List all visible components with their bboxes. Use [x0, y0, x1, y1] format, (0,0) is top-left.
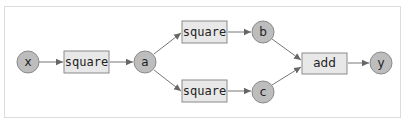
- node-a-label: a: [141, 55, 148, 69]
- node-square-2-label: square: [183, 25, 226, 39]
- edge-c-add: [272, 67, 301, 85]
- node-y: y: [370, 52, 392, 74]
- node-b-label: b: [259, 25, 267, 39]
- edge-a-square-bottom: [154, 70, 181, 91]
- computation-graph: x square a square square b c add y: [0, 0, 413, 128]
- node-square-2: square: [182, 21, 227, 43]
- edge-a-square-top: [154, 33, 181, 54]
- node-c-label: c: [260, 85, 267, 99]
- node-x-label: x: [24, 55, 31, 69]
- node-add: add: [302, 53, 347, 74]
- node-y-label: y: [377, 56, 384, 70]
- node-a: a: [134, 51, 156, 73]
- edge-b-add: [272, 39, 301, 60]
- node-square-1: square: [64, 51, 109, 73]
- node-b: b: [252, 21, 274, 43]
- node-square-3-label: square: [183, 84, 226, 98]
- node-c: c: [252, 81, 274, 103]
- node-square-3: square: [182, 80, 227, 102]
- node-x: x: [17, 51, 39, 73]
- node-add-label: add: [313, 56, 336, 70]
- node-square-1-label: square: [65, 55, 108, 69]
